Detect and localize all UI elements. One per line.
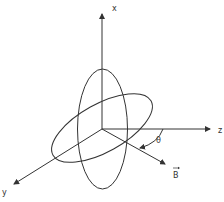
x-axis-label: x [112,4,117,13]
svg-text:B: B [173,171,179,180]
coordinate-diagram: x z y B θ [0,0,224,202]
theta-label: θ [156,136,161,145]
z-axis-label: z [218,126,222,135]
b-vector-label: B [173,167,180,180]
b-vector [102,129,165,164]
y-axis-label: y [2,188,7,197]
y-axis [14,129,102,184]
